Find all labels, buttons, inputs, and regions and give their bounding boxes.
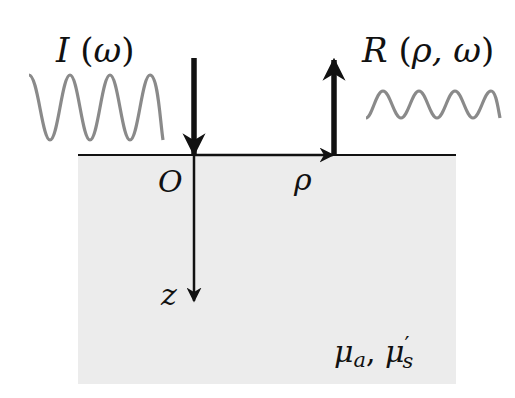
reflected-wave-icon — [366, 91, 500, 118]
incident-label: I (ω) — [55, 30, 135, 70]
diffuse-reflectance-diagram: I (ω) R (ρ, ω) O ρ z μa, μ′s — [0, 0, 515, 398]
incident-wave-icon — [29, 75, 163, 140]
reflected-label: R (ρ, ω) — [361, 30, 494, 70]
rho-label: ρ — [293, 162, 312, 197]
z-label: z — [160, 277, 177, 312]
origin-label: O — [158, 164, 183, 199]
optical-properties-label: μa, μ′s — [334, 332, 414, 373]
